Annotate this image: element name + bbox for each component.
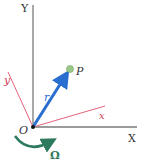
fixed-y-label: Y [20,2,29,15]
fixed-x-label: X [128,132,136,145]
rotating-y-label: y [3,74,11,87]
rotating-y-axis [8,72,33,127]
origin-dot [31,125,35,129]
point-label: P [75,65,84,78]
vector-label: r [44,91,50,104]
point-p [67,66,74,73]
rotating-x-label: x [99,110,105,121]
origin-label: O [19,124,28,137]
rotating-frame-diagram: Y X y x O P r Ω [0,0,144,164]
omega-label: Ω [50,149,60,162]
angular-velocity-arrow [15,136,50,147]
